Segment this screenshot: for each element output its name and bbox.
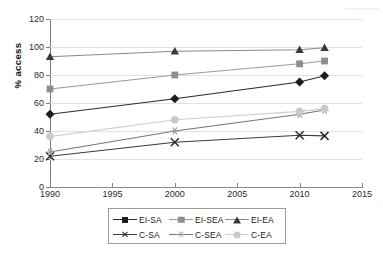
chart-legend: EI-SAEI-SEAEI-EA✕C-SA✳C-SEAC-EA	[108, 208, 286, 244]
x-axis-line	[50, 187, 363, 188]
scan-artifact	[345, 8, 379, 10]
y-tick-label: 20	[34, 154, 44, 164]
y-tick-label: 100	[29, 42, 44, 52]
legend-label: EI-EA	[251, 215, 274, 225]
legend-item-c-sea[interactable]: ✳C-SEA	[169, 229, 225, 240]
series-line	[50, 48, 325, 57]
series-ei-sea	[47, 58, 328, 93]
y-tick-label: 80	[34, 70, 44, 80]
legend-marker-diamond-icon	[113, 214, 137, 225]
data-point-square	[47, 86, 54, 93]
series-line	[50, 76, 325, 115]
plot-area	[50, 19, 362, 187]
y-tick-label: 120	[29, 14, 44, 24]
legend-marker-circle-icon	[225, 229, 249, 240]
data-point-diamond	[170, 94, 179, 103]
series-ei-ea	[46, 44, 329, 61]
data-point-circle	[296, 108, 304, 116]
data-point-star	[171, 128, 179, 135]
data-point-triangle	[320, 44, 328, 51]
legend-row: ✕C-SA✳C-SEAC-EA	[113, 227, 281, 242]
legend-row: EI-SAEI-SEAEI-EA	[113, 212, 281, 227]
chart-figure: % access 020406080100120 199019952000200…	[0, 0, 383, 254]
x-tick-label: 1990	[40, 189, 60, 199]
legend-label: EI-SEA	[195, 215, 223, 225]
x-tick-label: 1995	[102, 189, 122, 199]
legend-item-ei-ea[interactable]: EI-EA	[225, 214, 281, 225]
y-tick	[46, 187, 50, 188]
x-tick	[362, 183, 363, 187]
data-point-square	[171, 72, 178, 79]
y-tick-label: 60	[34, 98, 44, 108]
legend-item-c-ea[interactable]: C-EA	[225, 229, 281, 240]
legend-label: C-SEA	[195, 230, 221, 240]
data-point-diamond	[295, 77, 304, 86]
y-tick-label: 40	[34, 126, 44, 136]
data-point-square	[296, 60, 303, 67]
series-layer	[50, 19, 362, 187]
series-c-ea	[46, 105, 328, 141]
legend-marker-glyph	[234, 231, 241, 238]
data-point-circle	[171, 116, 179, 124]
y-axis-title: % access	[12, 21, 23, 111]
legend-marker-square-icon	[169, 214, 193, 225]
data-point-circle	[321, 105, 329, 113]
legend-item-ei-sa[interactable]: EI-SA	[113, 214, 169, 225]
legend-marker-glyph	[122, 217, 128, 223]
legend-marker-x-icon: ✕	[113, 229, 137, 240]
legend-marker-glyph	[233, 216, 241, 223]
legend-marker-glyph: ✕	[121, 230, 129, 240]
x-tick-label: 2015	[352, 189, 372, 199]
x-tick-label: 2000	[165, 189, 185, 199]
series-ei-sa	[45, 71, 329, 119]
legend-label: C-EA	[251, 230, 272, 240]
legend-marker-star-icon: ✳	[169, 229, 193, 240]
series-line	[50, 61, 325, 89]
series-line	[50, 109, 325, 137]
series-line	[50, 135, 325, 156]
legend-item-ei-sea[interactable]: EI-SEA	[169, 214, 225, 225]
data-point-diamond	[45, 110, 54, 119]
x-tick-label: 2005	[227, 189, 247, 199]
legend-marker-glyph: ✳	[177, 230, 185, 240]
data-point-diamond	[320, 71, 329, 80]
legend-marker-glyph	[178, 216, 185, 223]
legend-marker-triangle-icon	[225, 214, 249, 225]
legend-item-c-sa[interactable]: ✕C-SA	[113, 229, 169, 240]
data-point-square	[321, 58, 328, 65]
data-point-circle	[46, 133, 54, 141]
legend-label: C-SA	[139, 230, 160, 240]
x-tick-label: 2010	[290, 189, 310, 199]
legend-label: EI-SA	[139, 215, 162, 225]
